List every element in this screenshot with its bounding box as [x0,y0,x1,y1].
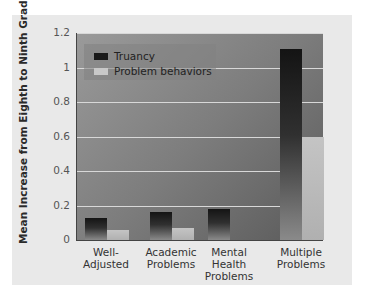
bar-problem-behaviors [107,230,129,240]
gridline [77,33,323,34]
y-tick-label: 0.2 [30,199,70,211]
x-tick-label: Well-Adjusted [71,246,141,270]
y-tick-label: 0.6 [30,130,70,142]
y-axis-label: Mean Increase from Eighth to Ninth Grade [17,24,31,244]
legend-label-problem-behaviors: Problem behaviors [114,65,212,77]
legend: Truancy Problem behaviors [84,44,216,80]
y-tick-label: 1 [30,61,70,73]
legend-item-truancy: Truancy [94,50,155,62]
x-tick-label: MultipleProblems [266,246,336,270]
y-tick-label: 0 [30,233,70,245]
bar-truancy [208,209,230,240]
bar-problem-behaviors [172,228,194,240]
problem-behaviors-swatch-icon [94,68,108,75]
bar-truancy [150,212,172,240]
truancy-swatch-icon [94,53,108,60]
bar-truancy [85,218,107,240]
y-tick-label: 0.8 [30,95,70,107]
bar-problem-behaviors [302,137,324,241]
legend-item-problem-behaviors: Problem behaviors [94,65,212,77]
bar-truancy [280,49,302,240]
y-tick-label: 0.4 [30,164,70,176]
y-tick-label: 1.2 [30,26,70,38]
legend-label-truancy: Truancy [114,50,155,62]
x-tick-label: MentalHealthProblems [194,246,264,282]
